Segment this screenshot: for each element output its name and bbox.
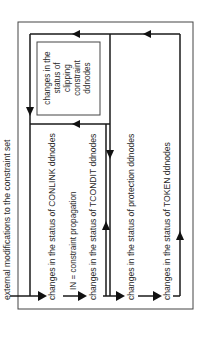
arrow-up-icon — [102, 221, 110, 230]
arrow-left-icon — [143, 30, 151, 38]
conlink-label: changes in the status of CONLINK ddnodes — [47, 133, 57, 300]
protection-label: changes in the status of protection ddno… — [126, 134, 136, 300]
clipping-label: changes in the status of clipping constr… — [43, 51, 92, 105]
arrow-left-icon — [72, 120, 80, 128]
arrow-right-icon — [116, 291, 125, 301]
tcondit-label: changes in the status of TCONDIT ddnodes — [88, 134, 98, 300]
arrow-left-icon — [72, 30, 80, 38]
arrow-right-icon — [38, 291, 47, 301]
arrow-down-icon — [106, 150, 114, 159]
token-label: changes in the status of TOKEN ddnodes — [162, 142, 172, 300]
in-constraint-propagation-label: IN = constraint propagation — [69, 191, 78, 290]
external-modifications-label: external modifications to the constraint… — [2, 139, 12, 300]
svg-text:clipping: clipping — [63, 64, 72, 92]
svg-text:constraint: constraint — [73, 60, 82, 96]
svg-text:ddnodes: ddnodes — [83, 62, 92, 93]
arrow-up-icon — [176, 231, 184, 240]
arrow-down-icon — [26, 107, 34, 116]
flow-diagram: external modifications to the constraint… — [0, 0, 199, 346]
svg-text:changes in the: changes in the — [43, 51, 52, 105]
svg-text:status of: status of — [53, 62, 62, 94]
arrow-right-icon — [78, 291, 87, 301]
arrow-right-icon — [153, 291, 162, 301]
